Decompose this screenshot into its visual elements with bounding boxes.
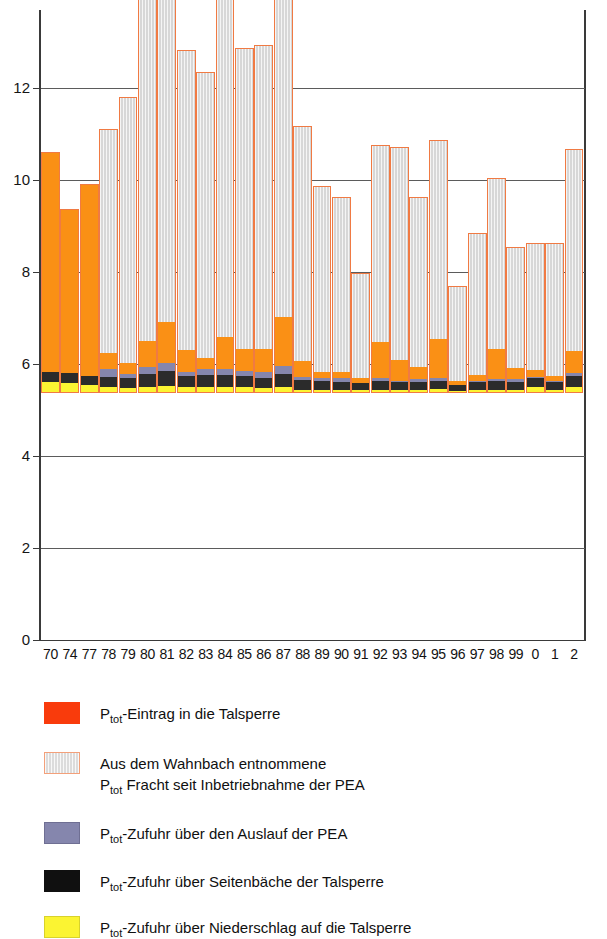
bar-89[interactable] <box>313 186 332 393</box>
bar-segment-orange-79 <box>120 363 137 374</box>
bar-segment-black-92 <box>372 381 389 390</box>
bar-70[interactable] <box>41 152 60 393</box>
legend-label-1: Ptot-Eintrag in die Talsperre <box>100 702 280 724</box>
bar-2[interactable] <box>565 149 584 393</box>
bar-96[interactable] <box>448 286 467 393</box>
bar-segment-black-91 <box>352 383 369 390</box>
legend-item-5[interactable]: Ptot-Zufuhr über Niederschlag auf die Ta… <box>44 916 411 938</box>
bars-group <box>0 0 607 672</box>
bar-segment-gray-83 <box>197 73 214 357</box>
bar-segment-gray-2 <box>566 150 583 351</box>
bar-segment-yellow-82 <box>178 387 195 392</box>
bar-segment-orange-78 <box>100 353 117 369</box>
bar-78[interactable] <box>99 129 118 394</box>
bar-segment-purple-81 <box>158 363 175 371</box>
bar-segment-black-79 <box>120 378 137 388</box>
bar-segment-yellow-92 <box>372 390 389 392</box>
bar-79[interactable] <box>119 97 138 393</box>
bar-segment-black-81 <box>158 371 175 386</box>
bar-91[interactable] <box>351 273 370 393</box>
bar-segment-gray-87 <box>275 0 292 317</box>
bar-97[interactable] <box>468 233 487 393</box>
bar-92[interactable] <box>371 145 390 393</box>
bar-82[interactable] <box>177 50 196 393</box>
bar-segment-black-70 <box>42 372 59 382</box>
bar-segment-gray-85 <box>236 49 253 350</box>
legend-label-4: Ptot-Zufuhr über Seitenbäche der Talsper… <box>100 870 384 892</box>
bar-segment-yellow-80 <box>139 387 156 392</box>
legend-label-2: Aus dem Wahnbach entnommenePtot Fracht s… <box>100 752 365 795</box>
bar-segment-black-78 <box>100 377 117 388</box>
bar-1[interactable] <box>545 243 564 393</box>
bar-segment-black-86 <box>255 378 272 388</box>
bar-87[interactable] <box>274 0 293 393</box>
bar-segment-orange-2 <box>566 351 583 373</box>
bar-segment-orange-70 <box>42 153 59 372</box>
legend-item-3[interactable]: Ptot-Zufuhr über den Auslauf der PEA <box>44 822 347 844</box>
bar-95[interactable] <box>429 140 448 393</box>
bar-81[interactable] <box>157 0 176 393</box>
legend-item-4[interactable]: Ptot-Zufuhr über Seitenbäche der Talsper… <box>44 870 384 892</box>
bar-segment-gray-81 <box>158 0 175 322</box>
bar-segment-orange-87 <box>275 317 292 366</box>
bar-98[interactable] <box>487 178 506 393</box>
bar-segment-gray-97 <box>469 234 486 375</box>
bar-0[interactable] <box>526 243 545 393</box>
bar-segment-gray-91 <box>352 274 369 377</box>
bar-segment-orange-80 <box>139 341 156 367</box>
bar-80[interactable] <box>138 0 157 393</box>
bar-segment-gray-98 <box>488 179 505 349</box>
bar-segment-yellow-93 <box>391 390 408 392</box>
bar-segment-gray-82 <box>178 51 195 350</box>
bar-90[interactable] <box>332 197 351 393</box>
bar-segment-gray-84 <box>217 0 234 337</box>
bar-segment-orange-82 <box>178 350 195 372</box>
bar-segment-gray-93 <box>391 148 408 359</box>
bar-segment-black-99 <box>507 382 524 390</box>
bar-segment-black-84 <box>217 375 234 387</box>
bar-93[interactable] <box>390 147 409 393</box>
bar-segment-gray-94 <box>410 198 427 366</box>
bar-segment-gray-88 <box>294 127 311 360</box>
bar-segment-gray-80 <box>139 0 156 341</box>
bar-94[interactable] <box>409 197 428 393</box>
legend-swatch-wahnbach <box>44 752 80 774</box>
bar-segment-orange-81 <box>158 322 175 362</box>
bar-segment-yellow-83 <box>197 387 214 392</box>
bar-segment-black-83 <box>197 375 214 387</box>
bar-segment-black-77 <box>81 376 98 385</box>
legend-item-2[interactable]: Aus dem Wahnbach entnommenePtot Fracht s… <box>44 752 365 795</box>
x-tick-label-2: 2 <box>563 646 586 662</box>
bar-segment-gray-0 <box>527 244 544 370</box>
bar-segment-black-90 <box>333 382 350 391</box>
bar-segment-gray-95 <box>430 141 447 339</box>
bar-segment-purple-78 <box>100 369 117 377</box>
bar-77[interactable] <box>80 184 99 393</box>
bar-segment-orange-84 <box>217 337 234 369</box>
bar-segment-yellow-89 <box>314 390 331 392</box>
bar-segment-black-98 <box>488 381 505 390</box>
bar-segment-orange-95 <box>430 339 447 378</box>
bar-segment-yellow-2 <box>566 387 583 392</box>
bar-74[interactable] <box>60 209 79 393</box>
legend-item-1[interactable]: Ptot-Eintrag in die Talsperre <box>44 702 280 724</box>
bar-83[interactable] <box>196 72 215 393</box>
bar-85[interactable] <box>235 48 254 393</box>
bar-99[interactable] <box>506 247 525 393</box>
bar-segment-gray-79 <box>120 98 137 363</box>
bar-segment-orange-86 <box>255 349 272 372</box>
legend-label-5: Ptot-Zufuhr über Niederschlag auf die Ta… <box>100 916 411 938</box>
bar-86[interactable] <box>254 45 273 393</box>
bar-segment-orange-92 <box>372 342 389 378</box>
bar-segment-orange-0 <box>527 370 544 377</box>
bar-84[interactable] <box>216 0 235 393</box>
bar-segment-yellow-70 <box>42 382 59 392</box>
bar-88[interactable] <box>293 126 312 393</box>
bar-segment-yellow-74 <box>61 383 78 392</box>
bar-segment-black-74 <box>61 373 78 383</box>
legend-swatch-seitenbaeche <box>44 870 80 892</box>
bar-segment-gray-78 <box>100 130 117 354</box>
bar-segment-yellow-77 <box>81 385 98 392</box>
bar-segment-orange-83 <box>197 358 214 369</box>
